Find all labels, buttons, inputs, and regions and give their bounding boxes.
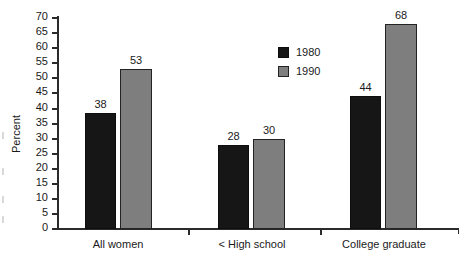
x-axis-label-all-women: All women [78,238,158,250]
y-tick-50 [52,77,57,79]
bar-value-college-graduate-1980: 44 [350,82,381,93]
y-tick-label-5: 5 [24,207,48,218]
bar-less-high-school-1980 [218,145,249,229]
scan-artifact [2,168,4,175]
y-tick-35 [52,123,57,125]
y-tick-25 [52,153,57,155]
bar-less-high-school-1990 [253,139,285,229]
scan-artifact [2,216,4,223]
x-axis-end-tick [458,228,460,234]
y-tick-label-15: 15 [24,177,48,188]
y-tick-label-70: 70 [24,11,48,22]
y-tick-55 [52,62,57,64]
y-tick-label-50: 50 [24,71,48,82]
bar-value-less-high-school-1990: 30 [253,125,285,136]
y-tick-label-45: 45 [24,86,48,97]
y-tick-10 [52,198,57,200]
y-tick-65 [52,32,57,34]
legend-label-1980: 1980 [296,45,320,59]
bar-chart-figure: Percent 70 65 60 55 50 45 40 35 30 25 20… [0,0,473,261]
y-tick-label-0: 0 [24,222,48,233]
y-tick-label-10: 10 [24,192,48,203]
y-tick-label-60: 60 [24,41,48,52]
bar-value-all-women-1980: 38 [85,99,116,110]
y-tick-45 [52,92,57,94]
y-tick-label-25: 25 [24,147,48,158]
bar-all-women-1980 [85,113,116,229]
x-axis-separator-tick [188,229,190,235]
y-tick-40 [52,108,57,110]
bar-value-less-high-school-1980: 28 [218,131,249,142]
y-tick-0 [52,228,57,230]
bar-value-college-graduate-1990: 68 [385,10,417,21]
bar-college-graduate-1990 [385,24,417,229]
bar-college-graduate-1980 [350,96,381,229]
y-axis-line [57,16,59,229]
y-tick-15 [52,183,57,185]
legend-swatch-1990-icon [278,66,289,77]
scan-artifact [2,132,4,139]
y-tick-label-30: 30 [24,132,48,143]
legend-swatch-1980-icon [278,47,289,58]
y-tick-label-35: 35 [24,117,48,128]
bar-value-all-women-1990: 53 [120,55,152,66]
y-tick-30 [52,138,57,140]
y-tick-label-65: 65 [24,26,48,37]
y-tick-label-40: 40 [24,102,48,113]
y-axis-title: Percent [10,104,22,164]
bar-all-women-1990 [120,69,152,229]
y-tick-20 [52,168,57,170]
x-axis-label-less-high-school: < High school [206,238,298,250]
y-tick-5 [52,213,57,215]
x-axis-label-college-graduate: College graduate [333,238,435,250]
y-tick-label-20: 20 [24,162,48,173]
y-tick-70 [52,17,57,19]
y-tick-label-55: 55 [24,56,48,67]
legend-label-1990: 1990 [296,64,320,78]
y-tick-60 [52,47,57,49]
x-axis-separator-tick [320,229,322,235]
scan-artifact [2,196,4,203]
